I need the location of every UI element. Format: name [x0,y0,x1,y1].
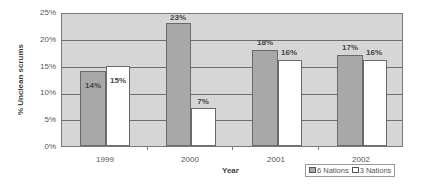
x-axis-label: Year [222,166,239,175]
legend-label: 3 Nations [360,166,392,175]
value-label-3nations-2000: 7% [188,97,218,106]
x-tick-2001: 2001 [256,155,296,164]
value-label-6nations-2000: 23% [163,13,193,22]
legend-swatch-3nations [352,167,359,173]
y-tick-25: 25% [30,8,56,17]
bar-3nations-2000 [191,108,216,146]
bar-6nations-2001 [252,50,278,146]
legend-label: 6 Nations [317,166,349,175]
x-tick-1999: 1999 [85,155,125,164]
bar-6nations-2000 [166,23,191,146]
value-label-3nations-1999: 15% [103,76,133,85]
y-axis-label: % Unclean scrums [16,40,25,120]
value-label-3nations-2002: 16% [359,48,389,57]
y-tick-5: 5% [30,115,56,124]
bar-3nations-2002 [363,60,387,146]
x-tick-2000: 2000 [170,155,210,164]
bar-chart: % Unclean scrums 25% 20% 15% 10% 5% 0% 1… [0,0,426,189]
y-tick-20: 20% [30,35,56,44]
legend-swatch-6nations [309,167,316,173]
legend-item-6nations: 6 Nations [309,166,349,175]
value-label-3nations-2001: 16% [274,48,304,57]
legend: 6 Nations 3 Nations [305,164,395,177]
value-label-6nations-2001: 18% [250,38,280,47]
bar-6nations-2002 [337,55,363,146]
bar-3nations-2001 [278,60,302,146]
x-tick-2002: 2002 [341,155,381,164]
y-tick-15: 15% [30,62,56,71]
legend-item-3nations: 3 Nations [352,166,392,175]
y-tick-10: 10% [30,88,56,97]
y-tick-0: 0% [30,142,56,151]
gridline-20 [62,40,402,41]
x-tickmark [147,147,148,150]
x-tickmark [232,147,233,150]
x-tickmark [318,147,319,150]
